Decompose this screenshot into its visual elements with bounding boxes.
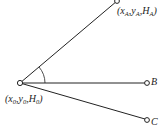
angle-arc xyxy=(39,67,45,83)
ray-oa xyxy=(20,1,117,83)
label-point-o: (x0,y0,H0) xyxy=(5,93,43,105)
diagram-canvas: (xA,yA,HA) (x0,y0,H0) B C xyxy=(0,0,167,133)
point-b xyxy=(145,81,150,86)
point-o xyxy=(17,80,22,85)
label-point-c: C xyxy=(151,116,158,127)
label-point-a: (xA,yA,HA) xyxy=(117,5,157,17)
point-a xyxy=(115,0,120,3)
survey-angle-diagram: (xA,yA,HA) (x0,y0,H0) B C xyxy=(0,0,167,133)
label-point-b: B xyxy=(151,76,157,87)
point-c xyxy=(145,118,150,123)
